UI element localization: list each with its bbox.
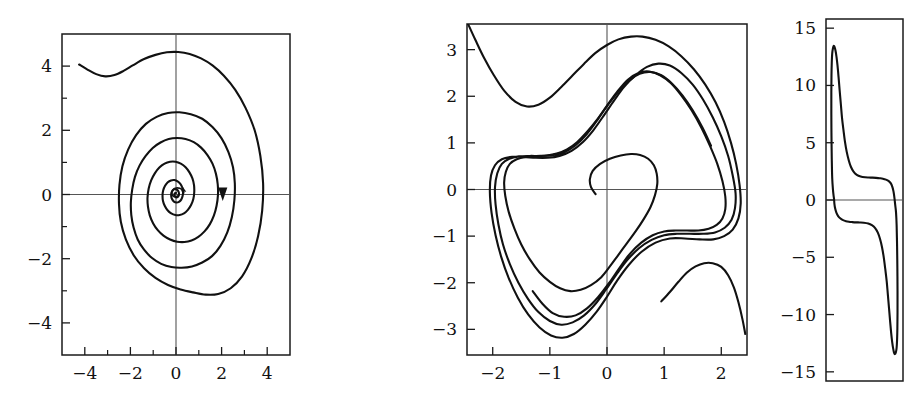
x-tick-label: −1 [537,363,562,383]
x-tick-label: 2 [216,363,227,383]
x-tick-label: 1 [659,363,670,383]
y-tick-label: 1 [446,133,457,153]
x-tick-label: 4 [262,363,273,383]
y-tick-label: 2 [41,120,52,140]
y-tick-label: −2 [432,273,457,293]
y-tick-label: 4 [41,56,52,76]
trajectory-curve [79,52,263,295]
y-tick-label: −4 [27,313,52,333]
y-tick-label: 10 [794,75,816,95]
y-tick-label: −2 [27,249,52,269]
y-tick-label: 0 [446,180,457,200]
y-tick-label: 5 [805,133,816,153]
panel-middle: −2−1012−3−2−10123 [432,22,747,383]
y-tick-label: −1 [432,226,457,246]
figure-container: −4−2024−4−2024−2−1012−3−2−10123−15−10−50… [0,0,921,419]
x-tick-label: 0 [602,363,613,383]
y-tick-label: 2 [446,86,457,106]
x-tick-label: 0 [171,363,182,383]
y-tick-label: 15 [794,18,816,38]
x-tick-label: 2 [716,363,727,383]
panel-middle-trajectories [467,22,745,338]
panel-right: −15−10−5051015 [780,18,903,382]
panel-left-trajectories [79,52,263,295]
y-tick-label: 3 [446,40,457,60]
x-tick-label: −2 [480,363,505,383]
y-tick-label: −10 [780,305,816,325]
three-panel-phase-portrait-figure: −4−2024−4−2024−2−1012−3−2−10123−15−10−50… [0,0,921,419]
x-tick-label: −4 [72,363,97,383]
trajectory-curve [467,22,741,338]
y-tick-label: −3 [432,319,457,339]
y-tick-label: −15 [780,362,816,382]
panel-left: −4−2024−4−2024 [27,34,290,383]
y-tick-label: 0 [41,185,52,205]
y-tick-label: −5 [791,247,816,267]
x-tick-label: −2 [118,363,143,383]
trajectory-curve [661,263,745,334]
y-tick-label: 0 [805,190,816,210]
